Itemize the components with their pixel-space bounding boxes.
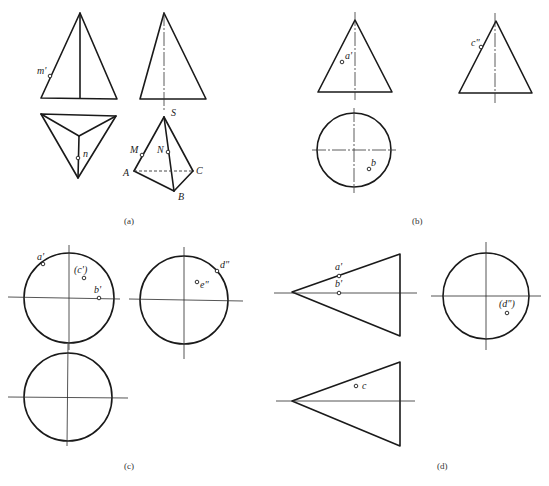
pyramid-top-view: n bbox=[41, 114, 116, 178]
label-b-prime: b' bbox=[335, 278, 343, 289]
label-N: N bbox=[156, 144, 165, 155]
label-B: B bbox=[178, 191, 184, 202]
label-e-double-prime: e" bbox=[200, 279, 209, 290]
point-a-prime bbox=[340, 60, 344, 64]
point-d-double-prime bbox=[505, 311, 509, 315]
label-c-double-prime: c" bbox=[471, 37, 480, 48]
label-a-prime: a' bbox=[37, 251, 45, 262]
sphere-front-view: a' (c') b' bbox=[8, 245, 120, 350]
caption-b: (b) bbox=[412, 216, 423, 226]
point-d-double-prime bbox=[215, 269, 219, 273]
point-b-prime bbox=[97, 296, 101, 300]
label-m-prime: m' bbox=[37, 65, 47, 76]
label-c-prime: (c') bbox=[74, 264, 88, 276]
cone-top-view: b bbox=[312, 108, 396, 193]
point-c-double-prime bbox=[479, 45, 483, 49]
caption-a: (a) bbox=[124, 216, 134, 226]
label-a-prime: a' bbox=[335, 261, 343, 272]
label-S: S bbox=[171, 107, 176, 118]
pyramid-front-view: m' bbox=[37, 13, 117, 99]
label-A: A bbox=[122, 167, 130, 178]
panel-b: a' c" b (b) bbox=[312, 12, 532, 226]
pyramid-3d-view: S M N A B C bbox=[122, 107, 203, 202]
label-n: n bbox=[83, 148, 88, 159]
point-c-prime bbox=[82, 276, 86, 280]
sphere-side-view: d" e" bbox=[129, 247, 243, 359]
sphere-top-view bbox=[8, 344, 128, 446]
point-M bbox=[140, 153, 144, 157]
label-b-prime: b' bbox=[94, 284, 102, 295]
point-c bbox=[354, 384, 358, 388]
cone-front-view: a' bbox=[318, 12, 392, 100]
cone-side-view: c" bbox=[459, 13, 532, 103]
label-c: c bbox=[362, 380, 367, 391]
point-b-prime bbox=[337, 291, 341, 295]
point-m-prime bbox=[48, 74, 52, 78]
label-d-double-prime: (d") bbox=[499, 298, 516, 310]
horizontal-cone-top-view: c bbox=[276, 362, 415, 446]
label-a-prime: a' bbox=[345, 50, 353, 61]
point-n bbox=[76, 156, 80, 160]
panel-a: m' n S M N A B bbox=[37, 12, 206, 226]
label-C: C bbox=[196, 165, 203, 176]
panel-d: a' b' (d") c (d) bbox=[274, 242, 541, 471]
caption-c: (c) bbox=[124, 461, 134, 471]
label-b: b bbox=[371, 157, 376, 168]
panel-c: a' (c') b' d" e" (c) bbox=[8, 245, 243, 471]
horizontal-cone-side-view: (d") bbox=[431, 242, 541, 350]
caption-d: (d) bbox=[437, 461, 448, 471]
point-a-prime bbox=[41, 262, 45, 266]
point-e-double-prime bbox=[195, 280, 199, 284]
horizontal-cone-front-view: a' b' bbox=[274, 254, 417, 336]
drawing-canvas: m' n S M N A B bbox=[0, 0, 549, 486]
label-d-double-prime: d" bbox=[220, 259, 230, 270]
label-M: M bbox=[129, 144, 139, 155]
point-N bbox=[166, 150, 170, 154]
pyramid-side-view bbox=[140, 12, 206, 110]
